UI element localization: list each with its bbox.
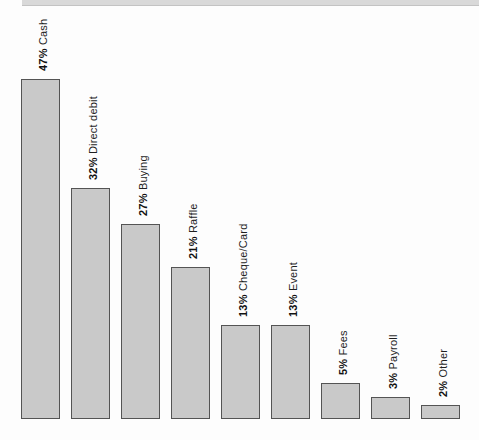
- bar-label-fees: 5% Fees: [336, 330, 350, 375]
- bar-percent-value: 2%: [437, 381, 449, 397]
- bar-label-cheque-card: 13% Cheque/Card: [236, 223, 250, 317]
- bar-direct-debit: [71, 188, 110, 419]
- bar-percent-value: 21%: [187, 236, 199, 259]
- bar-label-direct-debit: 32% Direct debit: [86, 96, 100, 180]
- bar-cheque-card: [221, 325, 260, 419]
- bar-percent-value: 27%: [137, 193, 149, 216]
- bar-label-event: 13% Event: [286, 262, 300, 317]
- bar-buying: [121, 224, 160, 419]
- bar-percent-value: 5%: [337, 359, 349, 375]
- bar-other: [421, 405, 460, 419]
- bar-label-other: 2% Other: [436, 349, 450, 397]
- bar-label-buying: 27% Buying: [136, 155, 150, 216]
- bar-event: [271, 325, 310, 419]
- bar-payroll: [371, 397, 410, 419]
- bar-label-raffle: 21% Raffle: [186, 203, 200, 259]
- bar-raffle: [171, 267, 210, 419]
- bar-percent-value: 47%: [37, 48, 49, 71]
- bar-label-cash: 47% Cash: [36, 19, 50, 71]
- bar-percent-value: 32%: [87, 157, 99, 180]
- bar-chart: 47% Cash32% Direct debit27% Buying21% Ra…: [0, 0, 479, 440]
- bar-fees: [321, 383, 360, 419]
- bar-percent-value: 13%: [237, 294, 249, 317]
- bar-cash: [21, 79, 60, 419]
- bar-label-payroll: 3% Payroll: [386, 334, 400, 389]
- bar-percent-value: 13%: [287, 294, 299, 317]
- bar-percent-value: 3%: [387, 373, 399, 389]
